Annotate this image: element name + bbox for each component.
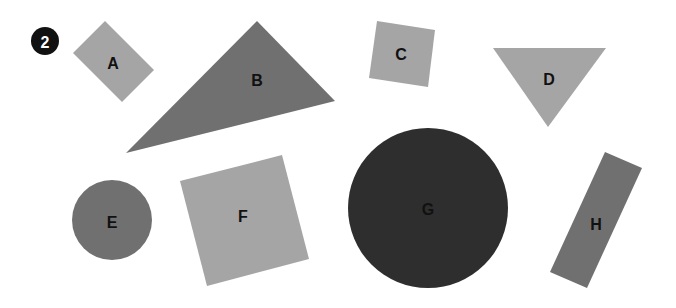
shapes-diagram: 2 A B C D E F G H xyxy=(0,0,676,308)
label-h: H xyxy=(590,216,602,233)
label-f: F xyxy=(238,208,248,225)
shape-b: B xyxy=(126,21,335,153)
triangle-d xyxy=(493,48,606,127)
figure-number-badge: 2 xyxy=(31,27,59,55)
badge-number: 2 xyxy=(41,34,50,51)
shape-d: D xyxy=(493,48,606,127)
triangle-b xyxy=(126,21,335,153)
label-a: A xyxy=(107,55,119,72)
label-c: C xyxy=(395,46,407,63)
label-b: B xyxy=(251,72,263,89)
shape-h: H xyxy=(550,152,642,288)
label-d: D xyxy=(543,71,555,88)
label-e: E xyxy=(107,214,118,231)
label-g: G xyxy=(422,201,434,218)
shape-f: F xyxy=(180,155,309,286)
shape-c: C xyxy=(369,21,435,87)
shape-a: A xyxy=(73,21,154,102)
shape-e: E xyxy=(72,180,152,260)
shape-g: G xyxy=(348,128,508,288)
